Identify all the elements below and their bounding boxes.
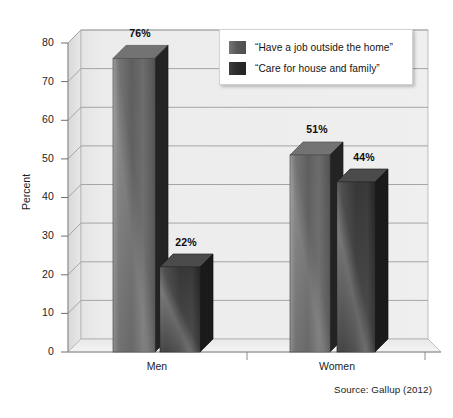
bar-label-women-care: 44% [334,151,394,163]
y-axis-title: Percent [20,162,32,222]
bar-label-women-job: 51% [287,123,347,135]
x-tick-label-men: Men [112,360,202,372]
legend-entry-have-a-job: “Have a job outside the home” [229,37,412,58]
y-tick-label-20: 20 [28,268,54,280]
bar-men-care [160,254,213,352]
legend-entry-care-for-house: “Care for house and family” [229,58,412,79]
y-tick-label-60: 60 [28,113,54,125]
x-tick-label-women: Women [292,360,382,372]
bar-women-care [337,169,388,352]
y-tick-label-70: 70 [28,75,54,87]
y-tick-label-80: 80 [28,36,54,48]
legend-label-have-a-job: “Have a job outside the home” [255,42,393,53]
legend-swatch-have-a-job [229,41,246,54]
bar-label-men-care: 22% [156,236,216,248]
bar-label-men-job: 76% [110,27,170,39]
y-tick-label-30: 30 [28,229,54,241]
legend-label-care-for-house: “Care for house and family” [255,63,380,74]
x-tick-marks [247,352,425,360]
legend-swatch-care-for-house [229,62,246,75]
chart-legend: “Have a job outside the home” “Care for … [219,29,413,85]
bar-chart: 80 70 60 50 40 30 20 10 0 Percent 76% 22… [0,0,453,418]
y-tick-label-10: 10 [28,306,54,318]
y-tick-marks [61,43,68,352]
y-tick-label-0: 0 [28,345,54,357]
source-note: Source: Gallup (2012) [334,384,432,395]
bar-women-job [290,142,343,352]
